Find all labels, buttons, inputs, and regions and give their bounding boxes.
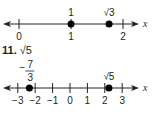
point-label-denominator: 3: [28, 72, 34, 83]
axis-label: x: [142, 82, 148, 93]
point-dot: [26, 85, 33, 92]
number-line-bottom: x−3−2−10123−73√5: [3, 59, 148, 106]
tick-label: 1: [68, 31, 74, 42]
problem-expression: √5: [20, 44, 32, 56]
tick-label: 1: [85, 95, 91, 106]
tick-label: 0: [16, 31, 22, 42]
tick-label: −3: [12, 95, 24, 106]
tick-label: 2: [102, 95, 108, 106]
number-line-figure: x0121√3 x−3−2−10123−73√5: [0, 0, 163, 116]
tick-label: 2: [120, 31, 126, 42]
tick-label: −1: [47, 95, 59, 106]
point-label-sign: −: [19, 62, 25, 73]
tick-label: 3: [119, 95, 125, 106]
tick-label: −2: [29, 95, 41, 106]
problem-number: 11.: [2, 44, 17, 56]
number-line-top: x0121√3: [3, 7, 148, 42]
point-label-numerator: 7: [28, 59, 34, 70]
point-dot: [106, 21, 113, 28]
problem-label: 11. √5: [2, 44, 32, 56]
axis-label: x: [142, 18, 148, 29]
point-label: 1: [68, 7, 74, 18]
tick-label: 0: [67, 95, 73, 106]
point-label: √3: [104, 7, 115, 18]
point-label: √5: [103, 71, 114, 82]
point-dot: [68, 21, 75, 28]
point-dot: [105, 85, 112, 92]
